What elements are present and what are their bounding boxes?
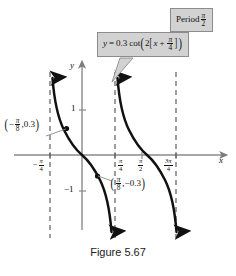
period-denominator: 2 (201, 20, 207, 27)
equation-close-paren: ) (179, 38, 182, 49)
point-label-right: ( π 8 , −0.3 ) (110, 176, 146, 192)
point-neg-pi-8 (64, 126, 69, 131)
tick-pi-2-fraction: π 2 (138, 158, 143, 172)
tick-neg-pi-4-sign: − (33, 161, 38, 169)
point-right-close-paren: ) (142, 178, 145, 189)
y-tick-label-one: 1 (71, 104, 76, 113)
period-callout: Period π 2 (170, 8, 213, 32)
figure-caption: Figure 5.67 (0, 246, 236, 258)
point-left-x-fraction: π 8 (15, 117, 21, 133)
equation-phase-denominator: 4 (167, 44, 173, 51)
period-label: Period (176, 15, 200, 24)
x-tick-label-pi-2: π 2 (137, 158, 144, 172)
tick-pi-4-denominator: 4 (118, 166, 123, 173)
equation-row: y = 0.3 cot ( 2 [ x + π 4 ] ) (103, 36, 183, 52)
equation-phase-fraction: π 4 (167, 36, 173, 52)
x-tick-label-3pi-4: 3π 4 (163, 158, 174, 172)
point-right-x-fraction: π 8 (116, 176, 122, 192)
figure-container: Period π 2 y = 0.3 cot ( 2 [ x + π 4 ] ) (0, 0, 236, 276)
tick-pi-4-fraction: π 4 (118, 158, 123, 172)
equation-coefficient: 0.3 (116, 39, 127, 48)
point-right-x-denominator: 8 (116, 184, 122, 191)
point-left-close-paren: ) (36, 119, 39, 130)
point-right-yvalue: −0.3 (125, 179, 141, 188)
leader-point-left (46, 129, 66, 136)
tick-pi-2-denominator: 2 (138, 166, 143, 173)
equation-variable: x (153, 39, 157, 48)
tick-neg-pi-4-row: − π 4 (33, 158, 45, 172)
period-label-row: Period π 2 (176, 12, 207, 28)
equation-function: cot (129, 39, 140, 48)
point-left-row: ( − π 8 , 0.3 ) (4, 117, 40, 133)
point-right-row: ( π 8 , −0.3 ) (110, 176, 146, 192)
tick-3pi-4-fraction: 3π 4 (164, 158, 173, 172)
tick-neg-pi-4-fraction: π 4 (39, 158, 44, 172)
equation-open-paren: ( (141, 38, 144, 49)
point-right-open-paren: ( (111, 178, 114, 189)
equation-lhs: y (103, 39, 107, 48)
y-tick-label-neg-one: −1 (64, 185, 74, 194)
point-label-left: ( − π 8 , 0.3 ) (4, 117, 40, 133)
x-axis-label: x (219, 156, 223, 165)
callout-pointer (112, 58, 133, 82)
x-tick-label-pi-4: π 4 (117, 158, 124, 172)
point-left-yvalue: 0.3 (24, 120, 35, 129)
x-tick-label-neg-pi-4: − π 4 (33, 158, 45, 172)
point-left-open-paren: ( (5, 119, 8, 130)
y-axis-label: y (70, 61, 74, 70)
equation-plus: + (159, 39, 164, 48)
equation-callout: y = 0.3 cot ( 2 [ x + π 4 ] ) (97, 32, 189, 57)
equation-close-bracket: ] (175, 39, 178, 48)
period-fraction: π 2 (201, 12, 207, 28)
tick-neg-pi-4-denominator: 4 (39, 166, 44, 173)
equation-equals: = (109, 39, 114, 48)
tick-3pi-4-denominator: 4 (166, 166, 171, 173)
equation-callout-tail (112, 58, 133, 82)
point-left-sign: − (9, 120, 14, 129)
point-left-x-denominator: 8 (15, 125, 21, 132)
